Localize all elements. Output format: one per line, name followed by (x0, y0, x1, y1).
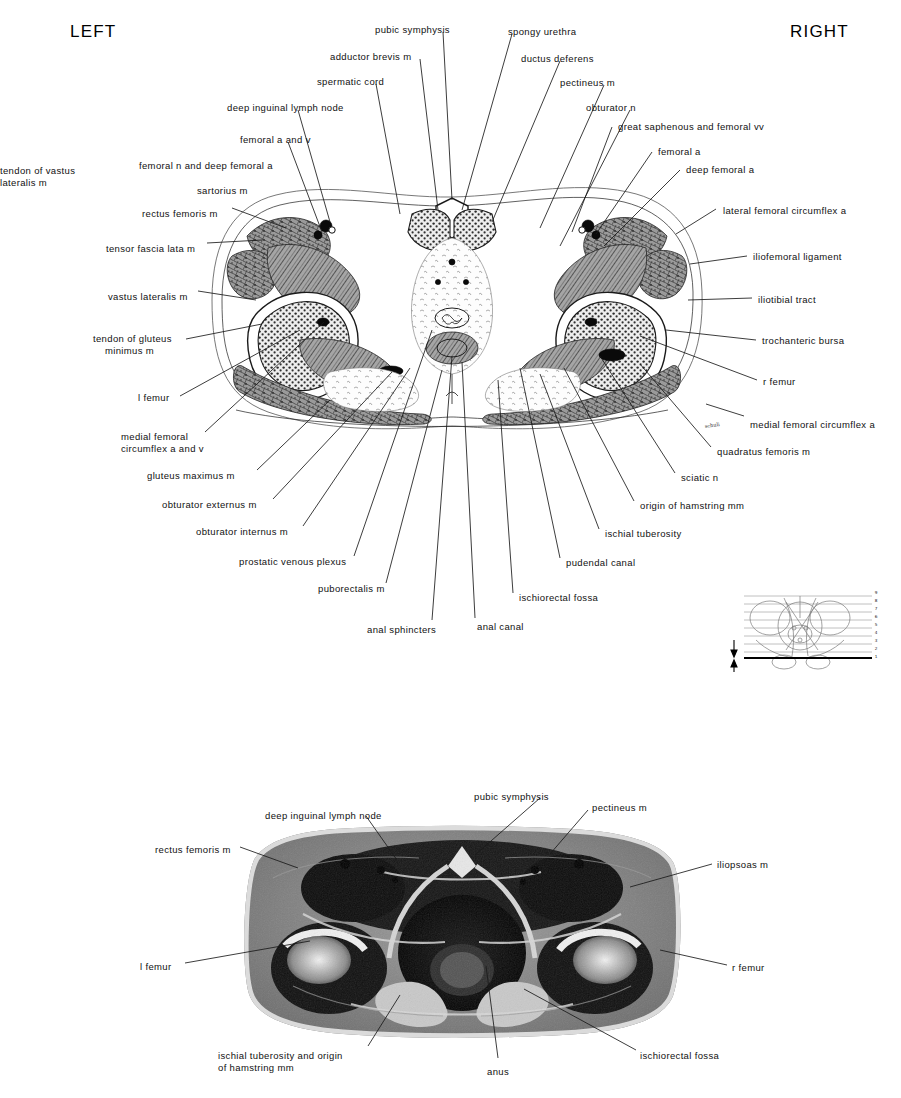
illustration-label-33: quadratus femoris m (717, 446, 810, 458)
illustration-label-27: lateral femoral circumflex a (723, 205, 846, 217)
illustration-label-4: tensor fascia lata m (106, 243, 195, 255)
svg-text:9: 9 (875, 590, 878, 595)
illustration-label-38: ischiorectal fossa (519, 592, 598, 604)
illustration-label-1: femoral n and deep femoral a (139, 160, 273, 172)
illustration-label-7: l femur (138, 392, 169, 404)
photograph-label-5: l femur (140, 961, 171, 973)
svg-text:1: 1 (875, 654, 878, 659)
illustration-label-11: obturator internus m (196, 526, 288, 538)
side-marker-right: RIGHT (790, 22, 849, 42)
illustration-label-15: deep inguinal lymph node (227, 102, 344, 114)
illustration-label-37: pudendal canal (566, 557, 635, 569)
photograph-label-6: r femur (732, 962, 765, 974)
illustration-label-10: obturator externus m (162, 499, 257, 511)
photograph-label-1: pubic symphysis (474, 791, 549, 803)
svg-text:5: 5 (875, 622, 878, 627)
illustration-label-32: medial femoral circumflex a (750, 419, 875, 431)
illustration-label-28: iliofemoral ligament (753, 251, 842, 263)
illustration-label-0: tendon of vastus lateralis m (0, 165, 75, 188)
illustration-label-20: spongy urethra (508, 26, 576, 38)
illustration-label-9: gluteus maximus m (147, 470, 235, 482)
illustration-label-12: prostatic venous plexus (239, 556, 346, 568)
illustration-label-39: anal canal (477, 621, 524, 633)
side-marker-left: LEFT (70, 22, 116, 42)
photograph-label-9: ischiorectal fossa (640, 1050, 719, 1062)
illustration-label-5: vastus lateralis m (108, 291, 188, 303)
svg-text:4: 4 (875, 630, 878, 635)
illustration-label-26: deep femoral a (686, 164, 754, 176)
section-level-key-figure: 98 76 54 32 1 (726, 588, 878, 674)
illustration-label-14: anal sphincters (367, 624, 436, 636)
illustration-label-24: great saphenous and femoral vv (618, 121, 764, 133)
illustration-label-23: obturator n (586, 102, 636, 114)
illustration-label-13: puborectalis m (318, 583, 385, 595)
svg-text:2: 2 (875, 646, 878, 651)
svg-text:8: 8 (875, 598, 878, 603)
photograph-label-8: anus (487, 1066, 509, 1078)
illustration-label-16: femoral a and v (240, 134, 311, 146)
cadaver-section-photograph (233, 818, 691, 1043)
svg-text:3: 3 (875, 638, 878, 643)
illustration-label-31: r femur (763, 376, 796, 388)
photograph-label-3: rectus femoris m (155, 844, 231, 856)
photograph-label-7: ischial tuberosity and origin of hamstri… (218, 1050, 343, 1073)
illustration-label-19: pubic symphysis (375, 24, 450, 36)
illustration-label-2: sartorius m (197, 185, 248, 197)
illustration-label-34: sciatic n (681, 472, 718, 484)
svg-text:schuli: schuli (704, 421, 720, 429)
illustration-label-35: origin of hamstring mm (640, 500, 744, 512)
illustration-label-6: tendon of gluteus minimus m (93, 333, 172, 356)
atlas-page: LEFT RIGHT (0, 0, 901, 1098)
illustration-label-30: trochanteric bursa (762, 335, 844, 347)
photograph-label-0: deep inguinal lymph node (265, 810, 382, 822)
svg-text:7: 7 (875, 606, 878, 611)
illustration-label-25: femoral a (658, 146, 701, 158)
photograph-label-4: iliopsoas m (717, 859, 768, 871)
illustration-label-21: ductus deferens (521, 53, 594, 65)
illustration-label-36: ischial tuberosity (605, 528, 682, 540)
illustration-label-8: medial femoral circumflex a and v (121, 431, 204, 454)
illustration-label-17: spermatic cord (317, 76, 384, 88)
illustration-label-29: iliotibial tract (758, 294, 816, 306)
photograph-label-2: pectineus m (592, 802, 647, 814)
illustration-label-3: rectus femoris m (142, 208, 218, 220)
svg-text:6: 6 (875, 614, 878, 619)
illustration-label-18: adductor brevis m (330, 51, 411, 63)
illustration-label-22: pectineus m (560, 77, 615, 89)
